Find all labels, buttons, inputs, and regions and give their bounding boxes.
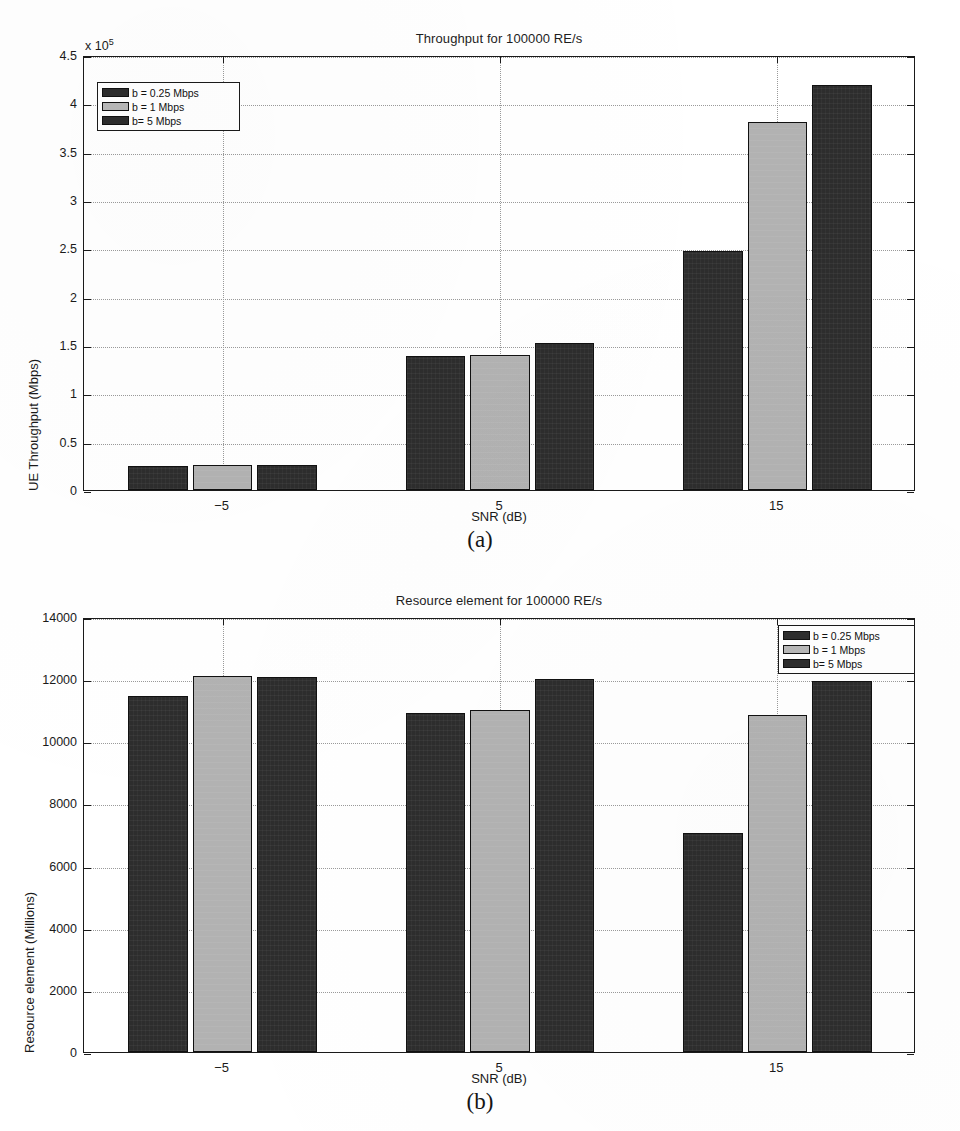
legend-swatch-icon (783, 645, 810, 654)
legend-item[interactable]: b = 0.25 Mbps (102, 86, 234, 99)
bar (812, 85, 872, 490)
y-tick-mark (84, 805, 91, 806)
y-tick-label: 3 (70, 194, 77, 208)
legend-item[interactable]: b= 5 Mbps (783, 657, 909, 670)
y-tick-mark (907, 395, 914, 396)
y-tick-label: 12000 (42, 673, 77, 687)
legend-swatch-icon (102, 88, 129, 97)
y-tick-mark (84, 395, 91, 396)
bar (193, 676, 253, 1052)
bar (748, 715, 808, 1052)
legend-item[interactable]: b = 1 Mbps (783, 643, 909, 656)
y-tick-label: 14000 (42, 611, 77, 625)
legend-swatch-icon (102, 102, 129, 111)
x-tick-mark (223, 57, 224, 63)
chart-title-a: Throughput for 100000 RE/s (83, 31, 915, 46)
legend-swatch-icon (783, 659, 810, 668)
y-tick-mark (84, 202, 91, 203)
x-tick-mark (500, 57, 501, 63)
bar (683, 251, 743, 490)
subfigure-label-b: (b) (0, 1089, 960, 1115)
y-tick-mark (907, 992, 914, 993)
y-axis-label-b: Resource element (Millions) (22, 892, 37, 1053)
plot-area-b (83, 618, 915, 1053)
y-tick-mark (907, 619, 914, 620)
x-tick-mark (500, 619, 501, 625)
chart-title-b: Resource element for 100000 RE/s (83, 593, 915, 608)
y-tick-label: 1.5 (60, 339, 77, 353)
legend-item[interactable]: b = 0.25 Mbps (783, 629, 909, 642)
y-tick-mark (907, 154, 914, 155)
y-gridline (84, 57, 914, 58)
y-tick-label: 6000 (49, 860, 77, 874)
y-tick-mark (84, 1054, 91, 1055)
legend-label: b= 5 Mbps (132, 116, 181, 126)
y-tick-mark (84, 492, 91, 493)
y-tick-mark (907, 202, 914, 203)
y-tick-mark (84, 681, 91, 682)
bar (257, 465, 317, 490)
y-tick-label: 1 (70, 387, 77, 401)
x-tick-label: 15 (769, 498, 783, 513)
y-tick-mark (907, 57, 914, 58)
x-tick-mark (777, 57, 778, 63)
x-tick-label: 5 (495, 498, 502, 513)
bar (535, 343, 595, 490)
bar (470, 355, 530, 490)
y-tick-label: 3.5 (60, 146, 77, 160)
bar (748, 122, 808, 490)
y-tick-mark (907, 444, 914, 445)
bar (812, 681, 872, 1052)
x-tick-label: −5 (214, 498, 229, 513)
y-tick-mark (84, 250, 91, 251)
legend-label: b = 0.25 Mbps (132, 88, 199, 98)
legend-swatch-icon (102, 116, 129, 125)
y-tick-label: 8000 (49, 797, 77, 811)
y-tick-mark (84, 347, 91, 348)
y-tick-mark (907, 299, 914, 300)
y-tick-label: 2.5 (60, 242, 77, 256)
y-tick-mark (84, 299, 91, 300)
legend-label: b = 1 Mbps (813, 645, 865, 655)
y-tick-mark (84, 105, 91, 106)
x-tick-label: 15 (769, 1060, 783, 1075)
legend-item[interactable]: b= 5 Mbps (102, 114, 234, 127)
y-tick-mark (907, 743, 914, 744)
subfigure-label-a: (a) (0, 527, 960, 553)
legend-swatch-icon (783, 631, 810, 640)
legend-a[interactable]: b = 0.25 Mbpsb = 1 Mbpsb= 5 Mbps (97, 82, 240, 131)
x-tick-label: −5 (214, 1060, 229, 1075)
y-tick-mark (84, 743, 91, 744)
y-tick-mark (907, 105, 914, 106)
y-tick-mark (84, 992, 91, 993)
y-axis-label-a: UE Throughput (Mbps) (26, 359, 41, 491)
x-tick-label: 5 (495, 1060, 502, 1075)
y-tick-mark (907, 930, 914, 931)
y-tick-label: 2 (70, 291, 77, 305)
legend-label: b = 1 Mbps (132, 102, 184, 112)
bar (406, 713, 466, 1052)
y-tick-mark (907, 868, 914, 869)
legend-label: b= 5 Mbps (813, 659, 862, 669)
figure-container: Throughput for 100000 RE/s x 105 UE Thro… (0, 0, 960, 1131)
y-tick-mark (84, 444, 91, 445)
y-tick-label: 10000 (42, 735, 77, 749)
y-tick-mark (907, 681, 914, 682)
y-tick-label: 4.5 (60, 49, 77, 63)
y-tick-label: 4000 (49, 922, 77, 936)
legend-item[interactable]: b = 1 Mbps (102, 100, 234, 113)
y-axis-exponent-text: x 10 (85, 39, 109, 53)
legend-label: b = 0.25 Mbps (813, 631, 880, 641)
y-tick-mark (907, 492, 914, 493)
y-tick-label: 0.5 (60, 436, 77, 450)
y-axis-exponent-power: 5 (109, 37, 114, 47)
y-tick-mark (907, 1054, 914, 1055)
y-tick-mark (907, 250, 914, 251)
bar (193, 465, 253, 490)
legend-b[interactable]: b = 0.25 Mbpsb = 1 Mbpsb= 5 Mbps (778, 625, 915, 674)
y-tick-label: 4 (70, 97, 77, 111)
bar (257, 677, 317, 1052)
y-tick-mark (907, 805, 914, 806)
y-tick-mark (84, 57, 91, 58)
bar (535, 679, 595, 1052)
